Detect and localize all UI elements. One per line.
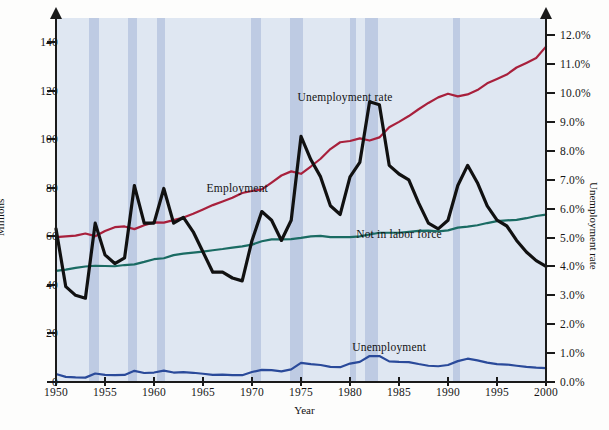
- right-axis-tick-label: 2.0%: [560, 318, 606, 330]
- x-axis-tick-label: 1970: [229, 386, 275, 398]
- right-axis-tick-label: 10.0%: [560, 87, 606, 99]
- series-label: Unemployment rate: [298, 91, 393, 103]
- left-axis-tick-label: 140: [18, 36, 58, 48]
- right-axis-tick: [546, 352, 555, 354]
- right-axis-tick-label: 8.0%: [560, 145, 606, 157]
- x-axis-tick: [153, 377, 155, 386]
- right-axis-tick: [546, 294, 555, 296]
- right-axis-tick-label: 12.0%: [560, 29, 606, 41]
- x-axis-tick: [55, 377, 57, 386]
- right-axis-tick-label: 9.0%: [560, 116, 606, 128]
- right-axis-title: Unemployment rate: [588, 182, 600, 270]
- right-axis-arrow-icon: [540, 7, 552, 19]
- x-axis-tick: [251, 377, 253, 386]
- series-label: Employment: [207, 182, 268, 194]
- right-axis-tick: [546, 208, 555, 210]
- x-axis-title: Year: [0, 404, 609, 416]
- left-axis-arrow-icon: [50, 7, 62, 19]
- right-axis-tick: [546, 179, 555, 181]
- right-axis-tick: [546, 237, 555, 239]
- right-axis-tick: [546, 323, 555, 325]
- x-axis-tick-label: 1975: [278, 386, 324, 398]
- x-axis-tick-label: 1965: [180, 386, 226, 398]
- x-axis-tick-label: 1960: [131, 386, 177, 398]
- x-axis-tick-label: 1985: [376, 386, 422, 398]
- right-axis-tick: [546, 92, 555, 94]
- chart-figure: 020406080100120140 0.0%1.0%2.0%3.0%4.0%5…: [0, 0, 609, 430]
- x-axis-tick: [496, 377, 498, 386]
- x-axis-tick-label: 1955: [82, 386, 128, 398]
- series-line: [56, 356, 546, 378]
- left-axis-tick-label: 40: [18, 279, 58, 291]
- x-axis-tick-label: 1990: [425, 386, 471, 398]
- x-axis-tick-label: 1995: [474, 386, 520, 398]
- right-axis-tick-label: 3.0%: [560, 289, 606, 301]
- series-line: [56, 102, 546, 298]
- x-axis-tick: [349, 377, 351, 386]
- plot-area: [56, 18, 546, 382]
- left-axis-tick-label: 80: [18, 182, 58, 194]
- x-axis-tick: [398, 377, 400, 386]
- left-axis-tick-label: 20: [18, 327, 58, 339]
- right-axis-tick-label: 11.0%: [560, 58, 606, 70]
- left-axis-tick-label: 120: [18, 85, 58, 97]
- right-axis-tick: [546, 265, 555, 267]
- right-axis-tick: [546, 150, 555, 152]
- right-axis-line: [545, 18, 547, 382]
- right-axis-tick: [546, 381, 555, 383]
- x-axis-tick-label: 1950: [33, 386, 79, 398]
- left-axis-title: Millions: [0, 199, 6, 236]
- series-lines: [56, 18, 546, 382]
- right-axis-tick: [546, 121, 555, 123]
- x-axis-tick: [545, 377, 547, 386]
- x-axis-tick-label: 1980: [327, 386, 373, 398]
- x-axis-tick: [202, 377, 204, 386]
- left-axis-tick-label: 100: [18, 133, 58, 145]
- x-axis-tick: [104, 377, 106, 386]
- x-axis-tick-label: 2000: [523, 386, 569, 398]
- right-axis-tick-label: 1.0%: [560, 347, 606, 359]
- right-axis-tick: [546, 63, 555, 65]
- right-axis-tick: [546, 34, 555, 36]
- x-axis-tick: [300, 377, 302, 386]
- series-label: Unemployment: [352, 341, 426, 353]
- x-axis-tick: [447, 377, 449, 386]
- left-axis-tick-label: 60: [18, 230, 58, 242]
- series-label: Not in labor force: [356, 228, 442, 240]
